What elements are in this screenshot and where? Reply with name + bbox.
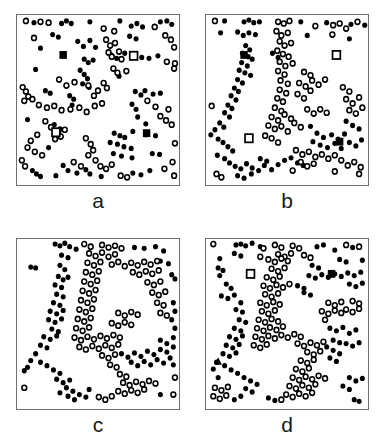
marker-open-circle (171, 392, 176, 397)
marker-filled-circle (38, 46, 43, 51)
marker-filled-circle (219, 293, 224, 298)
marker-open-circle (297, 80, 302, 85)
marker-filled-circle (67, 93, 72, 98)
marker-open-circle (323, 317, 328, 322)
marker-open-circle (274, 29, 279, 34)
marker-filled-circle (321, 135, 326, 140)
marker-filled-circle (339, 274, 344, 279)
marker-open-circle (68, 107, 73, 112)
marker-open-circle (298, 358, 303, 363)
marker-filled-circle (216, 265, 221, 270)
series-open-circle (209, 18, 365, 180)
marker-open-circle (279, 245, 284, 250)
series-open-circle (22, 242, 178, 403)
marker-open-circle (125, 175, 130, 180)
marker-filled-circle (248, 73, 253, 78)
marker-filled-circle (250, 241, 255, 246)
marker-filled-circle (340, 325, 345, 330)
marker-open-circle (93, 253, 98, 258)
marker-open-circle (300, 383, 305, 388)
marker-open-circle (306, 366, 311, 371)
marker-open-circle (339, 310, 344, 315)
marker-filled-circle (246, 30, 251, 35)
marker-open-circle (108, 362, 113, 367)
marker-open-circle (295, 92, 300, 97)
plot-area-c (16, 238, 180, 410)
marker-open-circle (272, 259, 277, 264)
marker-filled-circle (99, 174, 104, 179)
marker-open-circle (92, 337, 97, 342)
marker-filled-circle (305, 33, 310, 38)
marker-filled-circle (237, 68, 242, 73)
marker-open-circle (298, 160, 303, 165)
marker-open-circle (93, 287, 98, 292)
marker-filled-circle (53, 241, 58, 246)
marker-filled-circle (256, 168, 261, 173)
marker-open-circle (211, 242, 216, 247)
marker-open-circle (281, 99, 286, 104)
marker-filled-circle (242, 19, 247, 24)
marker-open-circle (293, 148, 298, 153)
marker-open-circle (302, 253, 307, 258)
marker-filled-circle (238, 394, 243, 399)
marker-open-circle (360, 105, 365, 110)
marker-open-circle (285, 81, 290, 86)
marker-open-circle (100, 101, 105, 106)
marker-open-circle (106, 245, 111, 250)
marker-filled-circle (59, 21, 64, 26)
marker-open-circle (173, 61, 178, 66)
marker-filled-circle (344, 341, 349, 346)
marker-open-circle (117, 49, 122, 54)
marker-filled-circle (243, 386, 248, 391)
marker-filled-circle (250, 57, 255, 62)
marker-open-circle (88, 244, 93, 249)
marker-filled-circle (222, 363, 227, 368)
marker-filled-circle (87, 38, 92, 43)
marker-open-circle (82, 279, 87, 284)
marker-filled-circle (155, 53, 160, 58)
marker-filled-circle (240, 333, 245, 338)
marker-filled-circle (38, 360, 43, 365)
marker-open-circle (263, 292, 268, 297)
marker-open-circle (276, 140, 281, 145)
marker-open-circle (147, 378, 152, 383)
marker-open-circle (353, 111, 358, 116)
marker-open-circle (339, 158, 344, 163)
marker-open-circle (87, 251, 92, 256)
marker-open-circle (142, 387, 147, 392)
marker-filled-circle (242, 176, 247, 181)
marker-filled-circle (339, 146, 344, 151)
marker-open-circle (170, 160, 175, 165)
marker-open-circle (282, 112, 287, 117)
marker-filled-circle (46, 145, 51, 150)
marker-open-circle (158, 279, 163, 284)
marker-open-circle (269, 266, 274, 271)
marker-filled-circle (132, 350, 137, 355)
marker-open-circle (277, 59, 282, 64)
marker-open-circle (350, 101, 355, 106)
marker-filled-circle (81, 44, 86, 49)
marker-open-circle (344, 307, 349, 312)
marker-open-circle (36, 103, 41, 108)
marker-filled-circle (353, 378, 358, 383)
marker-filled-circle (250, 165, 255, 170)
marker-filled-circle (227, 334, 232, 339)
marker-open-circle (269, 114, 274, 119)
marker-filled-circle (169, 272, 174, 277)
marker-open-circle (297, 391, 302, 396)
marker-open-circle (155, 300, 160, 305)
marker-open-circle (311, 357, 316, 362)
marker-open-circle (217, 396, 222, 401)
marker-open-circle (164, 313, 169, 318)
marker-open-circle (152, 24, 157, 29)
marker-open-circle (22, 98, 27, 103)
marker-open-circle (129, 310, 134, 315)
marker-filled-circle (266, 395, 271, 400)
marker-open-circle (352, 160, 357, 165)
marker-open-circle (269, 136, 274, 141)
marker-open-circle (310, 390, 315, 395)
marker-open-square (247, 270, 255, 278)
marker-filled-circle (129, 23, 134, 28)
marker-filled-circle (218, 30, 223, 35)
marker-filled-circle (93, 45, 98, 50)
